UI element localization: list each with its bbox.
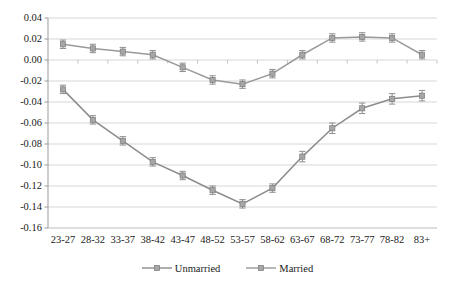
- y-axis-tick-label: 0.02: [2, 34, 42, 45]
- series-married: [60, 33, 425, 89]
- x-axis-tick-label: 78-82: [377, 234, 407, 245]
- data-point-marker: [90, 117, 95, 122]
- data-point-marker: [390, 35, 395, 40]
- x-axis-tick-label: 33-37: [108, 234, 138, 245]
- x-axis-tick-label: 53-57: [228, 234, 258, 245]
- legend-label: Unmarried: [175, 263, 220, 274]
- y-axis-tick-label: -0.14: [2, 202, 42, 213]
- y-axis-tick-label: -0.04: [2, 97, 42, 108]
- data-point-marker: [240, 201, 245, 206]
- y-axis-tick-label: 0.04: [2, 13, 42, 24]
- data-point-marker: [270, 71, 275, 76]
- y-axis-tick-label: -0.10: [2, 160, 42, 171]
- y-axis-tick-label: -0.06: [2, 118, 42, 129]
- x-axis-tick-label: 43-47: [168, 234, 198, 245]
- chart-container: 0.040.020.00-0.02-0.04-0.06-0.08-0.10-0.…: [0, 0, 455, 293]
- data-point-marker: [120, 49, 125, 54]
- data-point-marker: [300, 52, 305, 57]
- legend-label: Married: [279, 263, 313, 274]
- data-point-marker: [270, 186, 275, 191]
- y-axis-tick-label: -0.02: [2, 76, 42, 87]
- data-point-marker: [330, 35, 335, 40]
- x-axis-tick-label: 63-67: [287, 234, 317, 245]
- y-axis-tick-label: -0.12: [2, 181, 42, 192]
- data-point-marker: [180, 65, 185, 70]
- legend-entry[interactable]: Married: [246, 262, 313, 274]
- x-axis-tick-label: 48-52: [198, 234, 228, 245]
- series-unmarried: [60, 85, 425, 208]
- y-axis-tick-label: 0.00: [2, 55, 42, 66]
- x-axis-tick-label: 83+: [407, 234, 437, 245]
- legend-marker-icon: [246, 262, 276, 274]
- y-axis-tick-label: -0.16: [2, 223, 42, 234]
- data-point-marker: [390, 96, 395, 101]
- x-axis-tick-label: 73-77: [347, 234, 377, 245]
- data-point-marker: [210, 77, 215, 82]
- data-point-marker: [150, 52, 155, 57]
- data-point-marker: [360, 34, 365, 39]
- series-line: [63, 89, 422, 203]
- plot-area: [0, 0, 455, 293]
- data-point-marker: [90, 46, 95, 51]
- data-point-marker: [330, 126, 335, 131]
- data-point-marker: [360, 106, 365, 111]
- data-point-marker: [300, 154, 305, 159]
- data-point-marker: [419, 52, 424, 57]
- legend-marker-icon: [142, 262, 172, 274]
- data-point-marker: [419, 93, 424, 98]
- data-point-marker: [150, 159, 155, 164]
- x-axis-tick-label: 68-72: [317, 234, 347, 245]
- data-point-marker: [120, 138, 125, 143]
- data-point-marker: [240, 82, 245, 87]
- data-point-marker: [210, 188, 215, 193]
- chart-legend: UnmarriedMarried: [0, 262, 455, 274]
- data-point-marker: [180, 173, 185, 178]
- x-axis-tick-label: 38-42: [138, 234, 168, 245]
- x-axis-tick-label: 58-62: [257, 234, 287, 245]
- series-line: [63, 37, 422, 84]
- data-point-marker: [60, 87, 65, 92]
- y-axis-tick-label: -0.08: [2, 139, 42, 150]
- legend-entry[interactable]: Unmarried: [142, 262, 220, 274]
- data-point-marker: [60, 42, 65, 47]
- x-axis-tick-label: 23-27: [48, 234, 78, 245]
- x-axis-tick-label: 28-32: [78, 234, 108, 245]
